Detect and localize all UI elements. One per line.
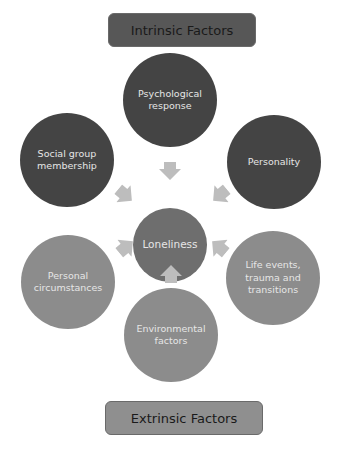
intrinsic-factors-label: Intrinsic Factors xyxy=(131,23,234,38)
arrow-down-right-icon xyxy=(111,181,139,209)
factor-label: Environmental factors xyxy=(130,323,212,348)
intrinsic-factors-box: Intrinsic Factors xyxy=(108,13,256,47)
factor-label: Personality xyxy=(248,156,300,168)
factor-label: Life events, trauma and transitions xyxy=(240,259,306,296)
factor-environmental: Environmental factors xyxy=(124,288,218,382)
factor-label: Personal circumstances xyxy=(27,270,109,295)
arrow-down-left-icon xyxy=(206,181,234,209)
factor-social-group-membership: Social group membership xyxy=(20,113,114,207)
factor-personality: Personality xyxy=(227,115,321,209)
extrinsic-factors-label: Extrinsic Factors xyxy=(131,411,237,426)
factor-psychological-response: Psychological response xyxy=(123,53,217,147)
factor-label: Psychological response xyxy=(129,88,211,113)
arrow-up-icon xyxy=(160,265,182,283)
arrow-up-left-icon xyxy=(205,233,233,261)
factor-life-events: Life events, trauma and transitions xyxy=(226,231,320,325)
arrow-down-icon xyxy=(159,162,181,180)
factor-personal-circumstances: Personal circumstances xyxy=(21,235,115,329)
factor-label: Social group membership xyxy=(26,148,108,173)
center-label: Loneliness xyxy=(142,238,197,252)
extrinsic-factors-box: Extrinsic Factors xyxy=(105,401,263,435)
